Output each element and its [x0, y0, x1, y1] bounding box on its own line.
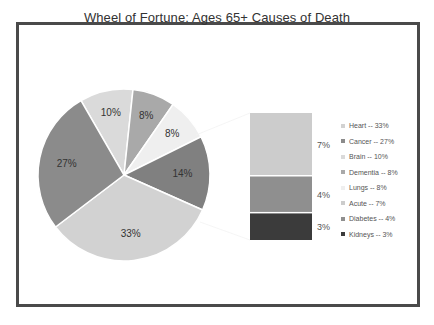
- pie-label-heart: 33%: [121, 228, 141, 239]
- legend-swatch-icon: [341, 139, 345, 143]
- legend-label: Brain -- 10%: [349, 153, 388, 160]
- legend-swatch-icon: [341, 170, 345, 174]
- pie-label-dementia: 8%: [139, 110, 154, 121]
- bar-label-acute: 7%: [317, 140, 330, 150]
- legend-swatch-icon: [341, 201, 345, 205]
- legend-label: Acute -- 7%: [349, 200, 386, 207]
- legend-item: Diabetes -- 4%: [341, 211, 421, 227]
- pie-label-lungs: 8%: [165, 128, 180, 139]
- legend-label: Diabetes -- 4%: [349, 215, 395, 222]
- bar-segment-kidneys: [250, 213, 312, 240]
- legend-item: Dementia -- 8%: [341, 165, 421, 181]
- legend-label: Kidneys -- 3%: [349, 231, 393, 238]
- pie-label-other: 14%: [172, 168, 192, 179]
- connector-line: [196, 113, 250, 135]
- legend-label: Cancer -- 27%: [349, 138, 394, 145]
- legend-swatch-icon: [341, 232, 345, 236]
- bar-label-kidneys: 3%: [317, 222, 330, 232]
- stacked-bar: 7%4%3%: [196, 113, 330, 240]
- chart-legend: Heart -- 33%Cancer -- 27%Brain -- 10%Dem…: [341, 118, 421, 242]
- legend-swatch-icon: [341, 217, 345, 221]
- legend-item: Cancer -- 27%: [341, 134, 421, 150]
- legend-item: Acute -- 7%: [341, 196, 421, 212]
- legend-item: Brain -- 10%: [341, 149, 421, 165]
- legend-label: Lungs -- 8%: [349, 184, 387, 191]
- bar-segment-acute: [250, 113, 312, 175]
- pie-label-cancer: 27%: [57, 158, 77, 169]
- legend-swatch-icon: [341, 155, 345, 159]
- legend-item: Heart -- 33%: [341, 118, 421, 134]
- legend-label: Dementia -- 8%: [349, 169, 398, 176]
- bar-segment-diabetes: [250, 177, 312, 212]
- connector-line: [200, 222, 250, 240]
- legend-item: Lungs -- 8%: [341, 180, 421, 196]
- pie-chart: 10%8%8%14%33%27%: [38, 89, 210, 261]
- pie-label-brain: 10%: [101, 107, 121, 118]
- legend-label: Heart -- 33%: [349, 122, 389, 129]
- legend-swatch-icon: [341, 186, 345, 190]
- legend-swatch-icon: [341, 124, 345, 128]
- legend-item: Kidneys -- 3%: [341, 227, 421, 243]
- bar-label-diabetes: 4%: [317, 190, 330, 200]
